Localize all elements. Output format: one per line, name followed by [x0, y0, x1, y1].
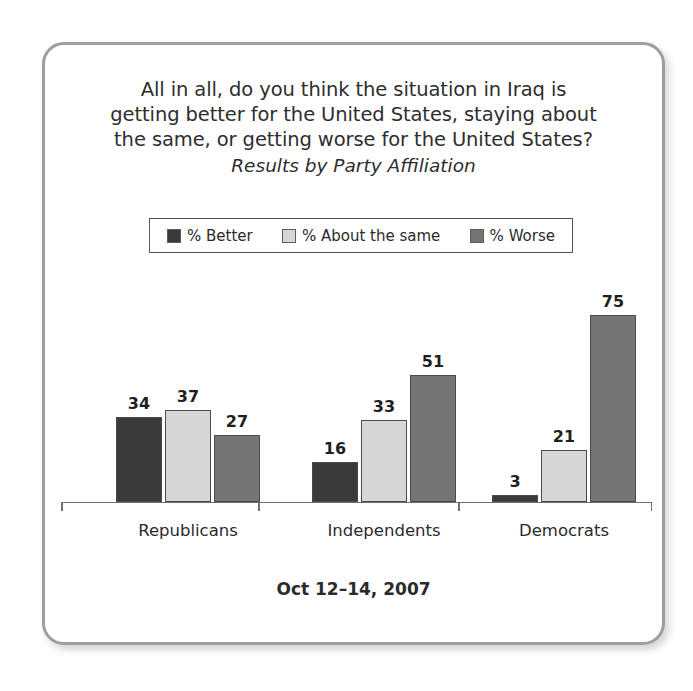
bar-column: 27: [214, 264, 260, 502]
legend-swatch-icon-worse: [470, 229, 484, 243]
bar-column: 21: [541, 264, 587, 502]
bar-column: 16: [312, 264, 358, 502]
chart-card: All in all, do you think the situation i…: [42, 42, 665, 645]
bar-value-label: 21: [553, 429, 575, 445]
bar-column: 3: [492, 264, 538, 502]
bar-column: 33: [361, 264, 407, 502]
legend-label-worse: % Worse: [490, 227, 555, 245]
bar: [312, 462, 358, 502]
bar: [541, 450, 587, 502]
bar-group: 32175: [484, 264, 644, 502]
bar-column: 51: [410, 264, 456, 502]
bar-group: 343727: [108, 264, 268, 502]
bar-value-label: 3: [509, 474, 520, 490]
bar-value-label: 37: [177, 389, 199, 405]
legend-item-worse: % Worse: [470, 227, 555, 245]
bar-value-label: 34: [128, 396, 150, 412]
category-label: Republicans: [138, 521, 238, 540]
legend-swatch-icon-better: [167, 229, 181, 243]
title-block: All in all, do you think the situation i…: [45, 77, 662, 176]
footer-date: Oct 12–14, 2007: [45, 579, 662, 599]
bar-column: 75: [590, 264, 636, 502]
legend-label-better: % Better: [187, 227, 253, 245]
bar-column: 37: [165, 264, 211, 502]
chart-subtitle: Results by Party Affiliation: [45, 155, 662, 176]
plot-area: 34372716335132175: [61, 263, 652, 503]
legend-swatch-icon-about-the-same: [282, 229, 296, 243]
bar-value-label: 16: [324, 441, 346, 457]
category-label: Independents: [327, 521, 440, 540]
legend-label-about-the-same: % About the same: [302, 227, 440, 245]
legend-item-better: % Better: [167, 227, 253, 245]
bar: [165, 410, 211, 502]
legend-item-about-the-same: % About the same: [282, 227, 440, 245]
axis-tick: [258, 503, 260, 511]
axis-tick: [61, 503, 63, 511]
chart-page: All in all, do you think the situation i…: [0, 0, 693, 691]
bar-value-label: 51: [422, 354, 444, 370]
axis-tick: [651, 503, 653, 511]
bar-column: 34: [116, 264, 162, 502]
bar-value-label: 75: [602, 294, 624, 310]
bar: [410, 375, 456, 502]
bar-value-label: 33: [373, 399, 395, 415]
category-label: Democrats: [519, 521, 609, 540]
bar: [214, 435, 260, 502]
title-line-2: getting better for the United States, st…: [45, 102, 662, 127]
bar: [116, 417, 162, 502]
axis-tick: [458, 503, 460, 511]
category-labels: RepublicansIndependentsDemocrats: [61, 521, 652, 547]
bar-value-label: 27: [226, 414, 248, 430]
x-axis-line: [61, 502, 652, 504]
bar-group: 163351: [304, 264, 464, 502]
chart-legend: % Better % About the same % Worse: [149, 218, 573, 253]
title-line-3: the same, or getting worse for the Unite…: [45, 127, 662, 152]
bar: [492, 495, 538, 502]
bar: [590, 315, 636, 502]
title-line-1: All in all, do you think the situation i…: [45, 77, 662, 102]
bar: [361, 420, 407, 502]
